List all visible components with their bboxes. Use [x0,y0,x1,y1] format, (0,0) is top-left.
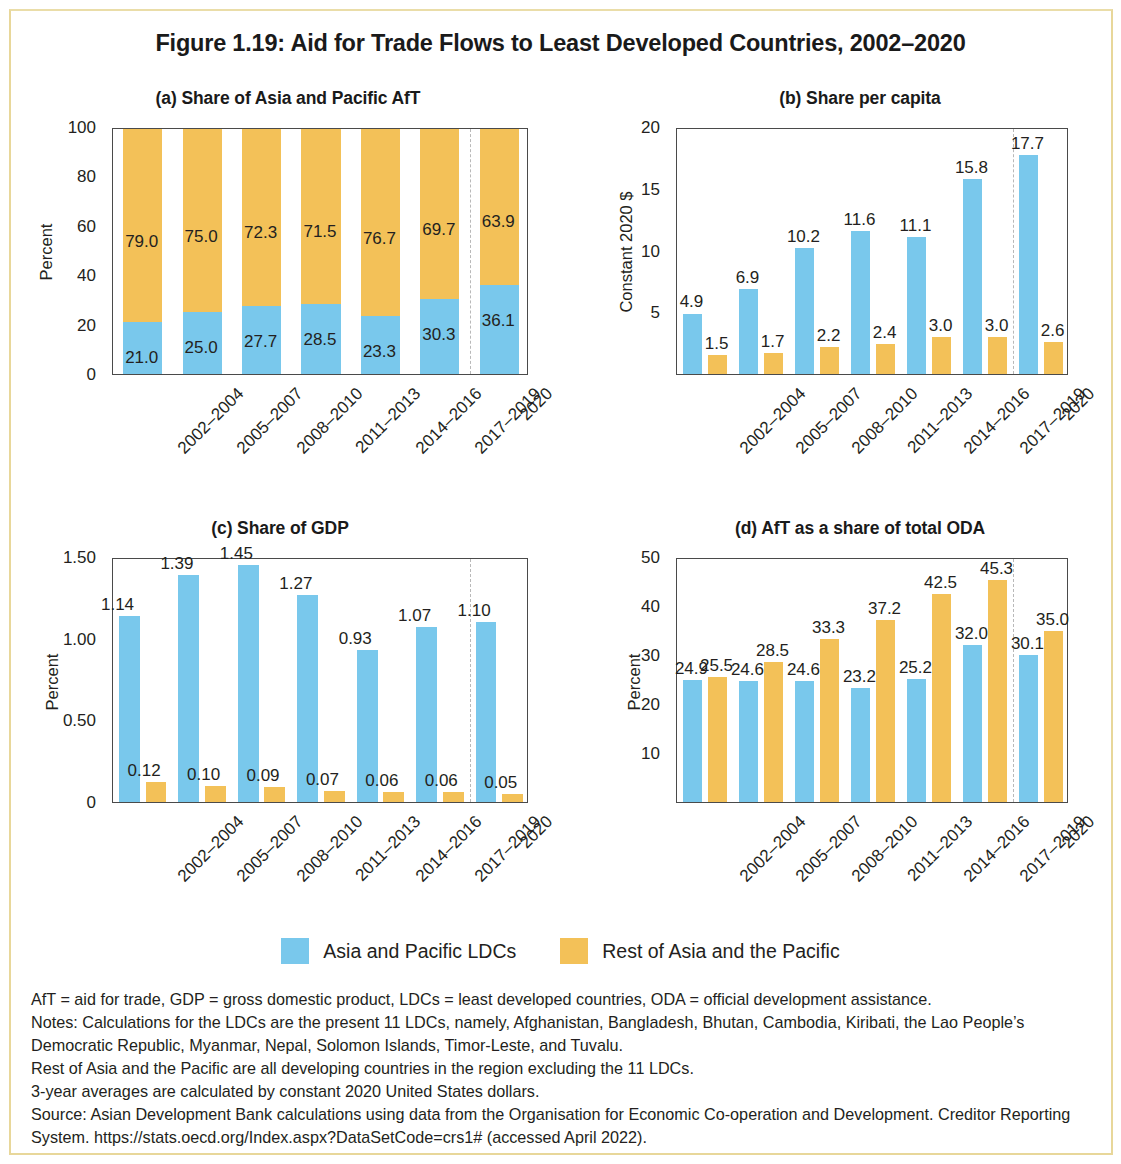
y-tick-label-b: 5 [0,303,668,323]
bar-ldc [1019,655,1039,802]
bar-rest [708,677,728,802]
bar-ldc [357,650,378,802]
chart-legend: Asia and Pacific LDCsRest of Asia and th… [0,938,1121,964]
bar-rest [1044,342,1064,374]
bar-rest [988,580,1008,802]
bar-rest [708,355,728,374]
chart-title-d: (d) AfT as a share of total ODA [600,518,1120,539]
figure-notes: AfT = aid for trade, GDP = gross domesti… [31,988,1093,1149]
plot-area-b [676,128,1068,375]
period-separator-line-b [1013,129,1014,374]
legend-swatch-ldc [281,938,309,964]
y-tick-label-a: 0 [0,365,104,385]
y-tick-label-c: 0 [0,793,104,813]
plot-area-c [112,558,528,803]
bar-ldc [739,681,759,802]
bar-ldc [907,679,927,802]
bar-rest [988,337,1008,374]
bar-ldc [851,688,871,802]
bar-rest [205,786,226,802]
chart-title-b: (b) Share per capita [600,88,1120,109]
chart-title-a: (a) Share of Asia and Pacific AfT [28,88,548,109]
note-line: Source: Asian Development Bank calculati… [31,1103,1093,1149]
bar-rest [820,639,840,802]
bar-rest [502,794,523,802]
note-line: Notes: Calculations for the LDCs are the… [31,1011,1093,1057]
legend-item-rest: Rest of Asia and the Pacific [560,938,839,964]
plot-area-d [676,558,1068,803]
bar-segment-ldc [123,322,162,374]
note-line: AfT = aid for trade, GDP = gross domesti… [31,988,1093,1011]
period-separator-line-d [1013,559,1014,802]
note-line: 3-year averages are calculated by consta… [31,1080,1093,1103]
y-tick-label-b: 15 [0,180,668,200]
bar-segment-rest [242,128,281,306]
bar-rest [383,792,404,802]
bar-segment-rest [361,128,400,316]
y-tick-label-d: 20 [0,695,668,715]
bar-ldc [795,248,815,374]
y-tick-label-a: 40 [0,266,104,286]
bar-ldc [683,314,703,375]
bar-rest [1044,631,1064,803]
bar-ldc [739,289,759,374]
y-tick-label-b: 20 [0,118,668,138]
bar-rest [264,787,285,802]
bar-segment-ldc [480,285,519,374]
bar-rest [324,791,345,802]
bar-segment-rest [420,128,459,299]
bar-ldc [795,681,815,802]
chart-title-c: (c) Share of GDP [10,518,550,539]
bar-ldc [907,237,927,374]
legend-swatch-rest [560,938,588,964]
bar-rest [443,792,464,802]
y-tick-label-a: 60 [0,217,104,237]
bar-ldc [963,645,983,802]
y-tick-label-d: 10 [0,744,668,764]
legend-label-rest: Rest of Asia and the Pacific [602,940,839,963]
legend-item-ldc: Asia and Pacific LDCs [281,938,516,964]
bar-ldc [851,231,871,374]
bar-ldc [963,179,983,374]
bar-rest [820,347,840,374]
bar-segment-ldc [361,316,400,374]
bar-rest [876,344,896,374]
figure-title: Figure 1.19: Aid for Trade Flows to Leas… [0,30,1121,57]
bar-rest [764,662,784,802]
bar-rest [932,337,952,374]
legend-label-ldc: Asia and Pacific LDCs [323,940,516,963]
bar-rest [932,594,952,802]
bar-rest [764,353,784,374]
period-separator-line-c [470,559,471,802]
bar-segment-rest [301,128,340,304]
figure-sheet: Figure 1.19: Aid for Trade Flows to Leas… [0,0,1121,1164]
bar-ldc [683,680,703,802]
y-tick-label-d: 30 [0,646,668,666]
bar-rest [876,620,896,802]
y-tick-label-d: 50 [0,548,668,568]
note-line: Rest of Asia and the Pacific are all dev… [31,1057,1093,1080]
bar-ldc [1019,155,1039,374]
y-tick-label-b: 10 [0,242,668,262]
y-tick-label-d: 40 [0,597,668,617]
bar-rest [146,782,167,802]
bar-segment-rest [183,128,222,312]
bar-segment-rest [123,128,162,322]
